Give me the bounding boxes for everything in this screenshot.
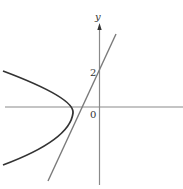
origin-label: 0: [90, 109, 96, 120]
diagram-figure: y 2 0: [0, 0, 183, 189]
y-axis-label: y: [94, 11, 101, 22]
y-intercept-label: 2: [90, 67, 96, 78]
y-axis-arrow-icon: [97, 23, 101, 30]
